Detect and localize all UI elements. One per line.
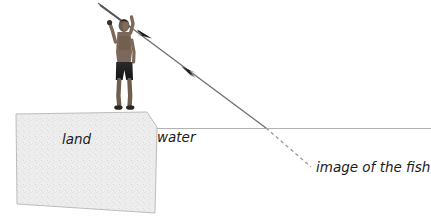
arm-right-upper bbox=[131, 17, 134, 33]
foot-left bbox=[114, 105, 122, 110]
land-block bbox=[16, 112, 157, 213]
arm-right-lower bbox=[132, 40, 134, 62]
figure-canvas: land water image of the fish bbox=[0, 0, 431, 218]
foot-right bbox=[126, 105, 134, 110]
person-with-spear bbox=[100, 5, 134, 110]
light-ray-dashed bbox=[266, 128, 311, 167]
arrowhead-up-left-icon bbox=[182, 67, 197, 79]
hand-left bbox=[107, 20, 112, 25]
arm-left bbox=[110, 24, 116, 42]
land-label: land bbox=[62, 133, 91, 147]
water-label: water bbox=[157, 131, 195, 145]
refraction-diagram-svg bbox=[0, 0, 431, 218]
land-polygon bbox=[16, 112, 157, 213]
leg-left bbox=[118, 80, 119, 105]
leg-right bbox=[129, 80, 130, 105]
shorts bbox=[116, 62, 133, 80]
image-of-the-fish-label: image of the fish bbox=[316, 161, 430, 175]
torso-shading bbox=[119, 36, 131, 50]
face-shading bbox=[122, 22, 128, 31]
